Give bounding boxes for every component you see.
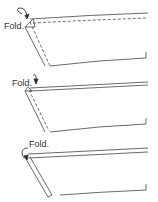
fold-label-3: Fold. [29, 140, 49, 149]
fold-arrow-icon [18, 8, 29, 19]
fold-step-3: Fold. [0, 135, 158, 202]
fold-label-2: Fold. [12, 79, 32, 88]
fold-step-1: Fold. [0, 0, 158, 67]
fold-arrow-icon [33, 75, 38, 84]
fold-step-1-drawing [0, 0, 158, 67]
fold-label-1: Fold. [4, 22, 24, 31]
fold-step-2: Fold. [0, 67, 158, 134]
fold-arrow-icon [22, 148, 28, 160]
fold-step-3-drawing [0, 135, 158, 202]
